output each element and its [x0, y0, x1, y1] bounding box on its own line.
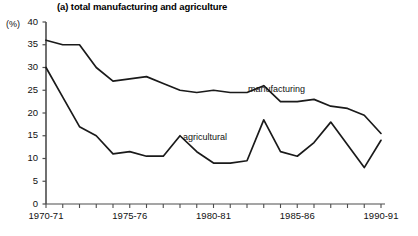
chart-plot-area — [0, 0, 418, 236]
series-label-manufacturing: manufacturing — [248, 84, 305, 94]
y-axis-tick-label: 35 — [16, 38, 38, 49]
x-axis-tick-label: 1985-86 — [267, 210, 327, 221]
x-axis-tick-label: 1975-76 — [100, 210, 160, 221]
axes-group — [43, 22, 386, 208]
y-axis-tick-label: 40 — [16, 16, 38, 27]
y-axis-tick-label: 0 — [16, 198, 38, 209]
data-series-group — [46, 40, 381, 167]
x-axis-tick-label: 1980-81 — [184, 210, 244, 221]
series-label-agricultural: agricultural — [183, 132, 227, 142]
y-axis-tick-label: 10 — [16, 152, 38, 163]
y-axis-tick-label: 20 — [16, 107, 38, 118]
series-line-agricultural — [46, 68, 381, 168]
series-line-manufacturing — [46, 40, 381, 133]
x-axis-tick-label: 1990-91 — [351, 210, 411, 221]
chart-container: (a) total manufacturing and agriculture … — [0, 0, 418, 236]
y-axis-tick-label: 30 — [16, 61, 38, 72]
y-axis-tick-label: 15 — [16, 129, 38, 140]
y-axis-tick-label: 25 — [16, 84, 38, 95]
x-axis-tick-label: 1970-71 — [16, 210, 76, 221]
y-axis-tick-label: 5 — [16, 175, 38, 186]
